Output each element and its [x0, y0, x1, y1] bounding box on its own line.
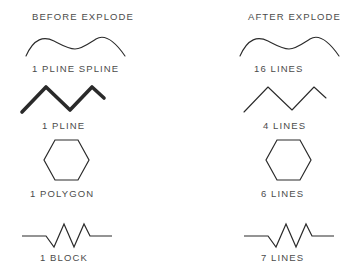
shape-before-polygon — [44, 140, 89, 180]
explode-comparison-diagram: BEFORE EXPLODE AFTER EXPLODE 1 PLINE SPL… — [0, 0, 362, 273]
label-after-6-lines: 6 LINES — [261, 188, 304, 199]
label-after-4-lines: 4 LINES — [263, 120, 306, 131]
label-after-7-lines: 7 LINES — [261, 252, 304, 263]
shape-after-polygon — [266, 140, 311, 180]
shapes-canvas — [0, 0, 362, 273]
label-before-block: 1 BLOCK — [40, 252, 88, 263]
shape-after-spline — [240, 37, 339, 56]
label-before-pline: 1 PLINE — [42, 120, 85, 131]
shape-before-spline — [26, 37, 125, 56]
label-before-polygon: 1 POLYGON — [30, 188, 94, 199]
shape-after-block — [244, 224, 334, 247]
shape-before-pline — [22, 87, 104, 112]
label-after-16-lines: 16 LINES — [254, 63, 303, 74]
shape-after-pline — [244, 87, 326, 112]
label-before-pline-spline: 1 PLINE SPLINE — [32, 63, 119, 74]
shape-before-block — [22, 224, 112, 247]
